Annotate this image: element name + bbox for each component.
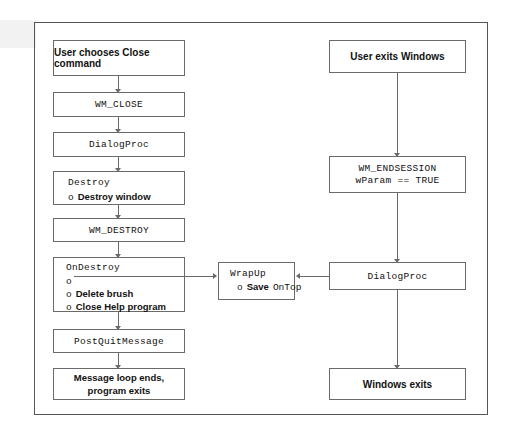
flowchart-diagram: User chooses Close command WM_CLOSE Dial… [0, 0, 509, 438]
bullet-marker: o [66, 276, 72, 287]
connector-dialogproc-to-windowsexits [397, 290, 398, 368]
node-label: PostQuitMessage [74, 336, 164, 347]
node-dialogproc-right: DialogProc [329, 262, 466, 290]
bullet-save-ontop: o Save OnTop [237, 281, 301, 293]
bullet-label-bold: Save [247, 281, 269, 292]
node-windows-exits: Windows exits [329, 368, 466, 400]
arrow-head [296, 273, 300, 279]
node-postquitmessage: PostQuitMessage [53, 329, 185, 353]
connector-userexits-to-endsession [397, 73, 398, 156]
node-label: User exits Windows [350, 51, 444, 62]
bullet-label: Destroy window [78, 191, 151, 202]
bullet-destroy-window: o Destroy window [68, 191, 151, 203]
bullet-marker: o [68, 192, 74, 203]
bullet-delete-brush: o Delete brush [66, 288, 133, 300]
node-title: Destroy [68, 177, 110, 188]
node-title: OnDestroy [66, 262, 120, 273]
node-destroy: Destroy o Destroy window [53, 171, 185, 205]
node-label-line2: wParam == TRUE [355, 175, 439, 186]
node-wm-close: WM_CLOSE [53, 92, 185, 117]
bullet-wrapup-link: o [66, 276, 72, 287]
connector-ondestroy-to-wrapup [74, 276, 214, 277]
node-label: User chooses Close command [54, 47, 184, 69]
bullet-marker: o [237, 282, 243, 293]
node-user-exits-windows: User exits Windows [329, 40, 466, 73]
bullet-close-help-program: o Close Help program [66, 301, 166, 313]
connector-dialogproc-right-to-wrapup [300, 276, 329, 277]
node-label-line1: WM_ENDSESSION [358, 163, 436, 174]
node-label: WM_CLOSE [95, 99, 143, 110]
node-dialogproc-left: DialogProc [53, 132, 185, 157]
node-wrapup: WrapUp o Save OnTop [218, 262, 295, 300]
node-label: Windows exits [363, 379, 432, 390]
bullet-label: Delete brush [76, 288, 134, 299]
node-label-line2: program exits [88, 384, 151, 397]
bullet-label-mono: OnTop [273, 282, 302, 293]
arrow-head [213, 273, 217, 279]
node-wm-destroy: WM_DESTROY [53, 218, 185, 242]
node-title: WrapUp [230, 268, 266, 279]
bullet-label: Close Help program [76, 301, 166, 312]
scan-artifact-smudge [0, 20, 36, 48]
node-label: DialogProc [89, 139, 149, 150]
node-user-chooses-close-command: User chooses Close command [53, 40, 185, 76]
node-ondestroy: OnDestroy o o Delete brush o Close Help … [53, 257, 185, 312]
bullet-marker: o [66, 302, 72, 313]
node-label-line1: Message loop ends, [74, 371, 164, 384]
node-label: DialogProc [367, 271, 427, 282]
bullet-marker: o [66, 289, 72, 300]
node-wm-endsession: WM_ENDSESSION wParam == TRUE [329, 156, 466, 193]
node-message-loop-ends: Message loop ends, program exits [53, 368, 185, 400]
connector-endsession-to-dialogproc [397, 193, 398, 262]
node-label: WM_DESTROY [89, 225, 149, 236]
